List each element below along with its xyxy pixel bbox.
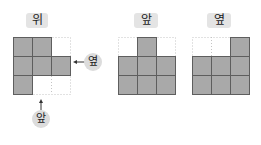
filled-cell — [14, 76, 33, 95]
filled-cell — [33, 57, 52, 76]
filled-cell — [138, 76, 157, 95]
filled-cell — [14, 38, 33, 57]
side-view-grid — [192, 37, 250, 95]
filled-cell — [193, 76, 212, 95]
front-arrow-icon — [39, 99, 43, 110]
top-view-grid — [13, 37, 71, 95]
side-direction-label: 옆 — [84, 53, 102, 71]
front-view-grid — [118, 37, 176, 95]
filled-cell — [212, 76, 231, 95]
filled-cell — [231, 57, 250, 76]
filled-cell — [119, 57, 138, 76]
filled-cell — [138, 38, 157, 57]
filled-cell — [231, 76, 250, 95]
filled-cell — [14, 57, 33, 76]
filled-cell — [231, 38, 250, 57]
filled-cell — [157, 57, 176, 76]
filled-cell — [193, 57, 212, 76]
filled-cell — [33, 38, 52, 57]
filled-cell — [157, 76, 176, 95]
filled-cell — [119, 76, 138, 95]
filled-cell — [138, 57, 157, 76]
filled-cell — [52, 57, 71, 76]
filled-cell — [212, 57, 231, 76]
front-direction-label: 앞 — [32, 110, 50, 128]
